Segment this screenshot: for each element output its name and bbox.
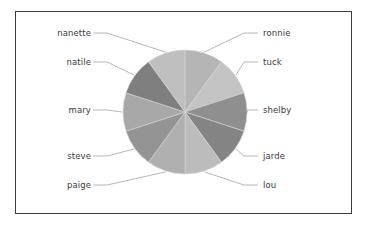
pie-label-lou: lou bbox=[263, 180, 343, 190]
pie-label-steve: steve bbox=[26, 151, 91, 161]
pie-label-nanette: nanette bbox=[26, 28, 91, 38]
leader-line-natile bbox=[93, 62, 134, 75]
leader-line-ronnie bbox=[204, 33, 258, 52]
pie-label-paige: paige bbox=[26, 180, 91, 190]
pie-slice-group bbox=[123, 50, 247, 174]
pie-label-mary: mary bbox=[26, 105, 91, 115]
leader-line-tuck bbox=[236, 62, 258, 75]
leader-line-lou bbox=[204, 172, 258, 185]
pie-label-ronnie: ronnie bbox=[263, 28, 343, 38]
pie-label-jarde: jarde bbox=[263, 151, 343, 161]
leader-line-jarde bbox=[236, 149, 258, 156]
leader-line-steve bbox=[93, 149, 134, 156]
leader-line-paige bbox=[93, 172, 166, 185]
leader-line-mary bbox=[93, 110, 122, 112]
pie-chart-figure: nanette natile mary steve paige ronnie t… bbox=[0, 0, 368, 227]
pie-label-tuck: tuck bbox=[263, 57, 343, 67]
pie-label-natile: natile bbox=[26, 57, 91, 67]
leader-line-nanette bbox=[93, 33, 166, 52]
pie-label-shelby: shelby bbox=[263, 105, 343, 115]
